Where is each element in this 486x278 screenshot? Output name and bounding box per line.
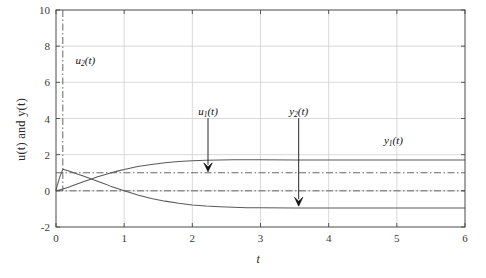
x-tick-label: 6 xyxy=(462,233,468,244)
annotation-arrows xyxy=(204,118,303,206)
chart-canvas xyxy=(0,0,486,278)
x-tick-label: 5 xyxy=(394,233,400,244)
u1-label: u1(t) xyxy=(198,105,218,117)
x-tick-label: 1 xyxy=(121,233,127,244)
y-tick-label: 0 xyxy=(45,185,51,196)
gridlines xyxy=(56,10,465,227)
y-tick-label: 8 xyxy=(45,41,51,52)
x-tick-label: 4 xyxy=(326,233,332,244)
y-axis-title: u(t) and y(t) xyxy=(14,98,29,161)
y1-label: y1(t) xyxy=(384,134,403,146)
x-tick-label: 2 xyxy=(190,233,196,244)
x-tick-label: 0 xyxy=(53,233,59,244)
y2-label: y2(t) xyxy=(289,105,308,117)
x-tick-label: 3 xyxy=(258,233,264,244)
y-tick-label: 6 xyxy=(45,77,51,88)
y-tick-label: 4 xyxy=(45,113,51,124)
y-tick-label: 2 xyxy=(45,149,51,160)
figure-container: -20246810 0123456 u2(t)u1(t)y2(t)y1(t) t… xyxy=(0,0,486,278)
y-tick-label: 10 xyxy=(39,5,50,16)
y-tick-label: -2 xyxy=(41,222,50,233)
x-axis-title: t xyxy=(257,252,260,267)
u2-label: u2(t) xyxy=(75,54,95,66)
